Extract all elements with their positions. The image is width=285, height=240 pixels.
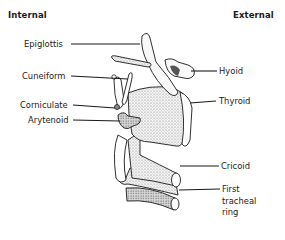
label-corniculate: Corniculate bbox=[20, 100, 68, 110]
hyoid-bone bbox=[165, 59, 194, 79]
thyroid-cartilage bbox=[128, 87, 192, 146]
label-hyoid: Hyoid bbox=[219, 66, 243, 76]
label-first-tracheal-ring: First tracheal ring bbox=[222, 184, 256, 219]
label-epiglottis: Epiglottis bbox=[24, 39, 63, 49]
label-thyroid: Thyroid bbox=[219, 96, 250, 106]
label-cuneiform: Cuneiform bbox=[22, 71, 65, 81]
label-cricoid: Cricoid bbox=[221, 161, 250, 171]
label-arytenoid: Arytenoid bbox=[28, 115, 69, 125]
